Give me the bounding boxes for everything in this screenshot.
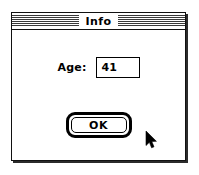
dialog-body: Age: 41 OK	[12, 30, 185, 160]
title-bar[interactable]: Info	[12, 13, 185, 30]
age-input-value: 41	[102, 62, 117, 73]
ok-button-label: OK	[89, 120, 108, 131]
ok-button[interactable]: OK	[66, 112, 132, 138]
dialog-button-row: OK	[12, 112, 185, 138]
age-field-row: Age: 41	[12, 57, 185, 78]
age-input[interactable]: 41	[96, 57, 140, 78]
info-dialog-window: Info Age: 41 OK	[11, 12, 186, 161]
window-title: Info	[79, 15, 119, 28]
age-label: Age:	[57, 61, 86, 74]
